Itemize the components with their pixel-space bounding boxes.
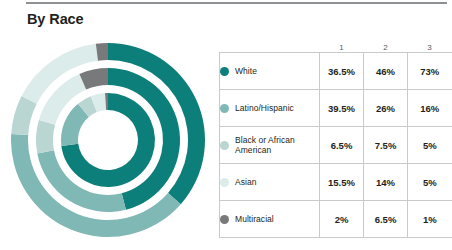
donut-segment	[36, 120, 55, 154]
legend-color-dot-icon	[220, 178, 229, 187]
page-title: By Race	[27, 11, 84, 27]
legend-color-dot-icon	[220, 215, 229, 224]
legend-cell: Asian	[220, 164, 320, 201]
concentric-donut-chart	[11, 40, 207, 240]
value-cell: 1%	[408, 201, 452, 238]
value-cell: 6.5%	[320, 127, 364, 164]
column-header-1: 1	[320, 36, 364, 53]
top-divider-rule	[26, 2, 447, 4]
legend-color-dot-icon	[220, 141, 229, 150]
value-cell: 6.5%	[364, 201, 408, 238]
table-row: White36.5%46%73%	[220, 53, 452, 90]
donut-segment	[96, 43, 108, 61]
value-cell: 5%	[408, 164, 452, 201]
legend-row: Multiracial	[220, 214, 319, 224]
value-cell: 16%	[408, 90, 452, 127]
donut-segment	[11, 96, 37, 135]
value-cell: 46%	[364, 53, 408, 90]
table: 1 2 3 White36.5%46%73%Latino/Hispanic39.…	[219, 36, 452, 238]
table-row: Multiracial2%6.5%1%	[220, 201, 452, 238]
column-header-3: 3	[408, 36, 452, 53]
donut-ring-2	[36, 68, 180, 212]
table-header: 1 2 3	[220, 36, 452, 53]
value-cell: 36.5%	[320, 53, 364, 90]
legend-color-dot-icon	[220, 67, 229, 76]
donut-ring-3	[61, 93, 155, 187]
donut-svg	[11, 40, 207, 240]
value-cell: 39.5%	[320, 90, 364, 127]
legend-label: Multiracial	[235, 214, 274, 224]
legend-row: Black or African American	[220, 135, 319, 155]
legend-row: Asian	[220, 177, 319, 187]
legend-cell: Latino/Hispanic	[220, 90, 320, 127]
value-cell: 73%	[408, 53, 452, 90]
value-cell: 2%	[320, 201, 364, 238]
value-cell: 5%	[408, 127, 452, 164]
race-data-table: 1 2 3 White36.5%46%73%Latino/Hispanic39.…	[219, 36, 451, 238]
header-spacer	[220, 36, 320, 53]
legend-label: Asian	[235, 177, 257, 187]
value-cell: 26%	[364, 90, 408, 127]
table-header-row: 1 2 3	[220, 36, 452, 53]
legend-label: Latino/Hispanic	[235, 103, 294, 113]
legend-row: Latino/Hispanic	[220, 103, 319, 113]
value-cell: 15.5%	[320, 164, 364, 201]
table-body: White36.5%46%73%Latino/Hispanic39.5%26%1…	[220, 53, 452, 238]
table-row: Asian15.5%14%5%	[220, 164, 452, 201]
table-row: Latino/Hispanic39.5%26%16%	[220, 90, 452, 127]
value-cell: 14%	[364, 164, 408, 201]
legend-row: White	[220, 66, 319, 76]
table-row: Black or African American6.5%7.5%5%	[220, 127, 452, 164]
value-cell: 7.5%	[364, 127, 408, 164]
legend-cell: Multiracial	[220, 201, 320, 238]
column-header-2: 2	[364, 36, 408, 53]
legend-label: White	[235, 66, 257, 76]
legend-color-dot-icon	[220, 104, 229, 113]
legend-label: Black or African American	[235, 135, 319, 155]
legend-cell: Black or African American	[220, 127, 320, 164]
legend-cell: White	[220, 53, 320, 90]
